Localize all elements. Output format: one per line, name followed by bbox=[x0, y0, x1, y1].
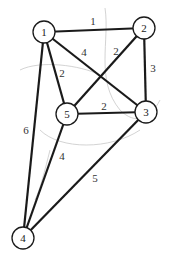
weight-1-2: 1 bbox=[90, 15, 96, 27]
edge-1-2 bbox=[44, 28, 144, 32]
node-1-label: 1 bbox=[41, 26, 47, 38]
node-3-label: 3 bbox=[143, 106, 149, 118]
node-2-label: 2 bbox=[141, 22, 147, 34]
edge-2-3 bbox=[144, 28, 146, 112]
node-3: 3 bbox=[135, 101, 157, 123]
weight-1-3: 4 bbox=[81, 46, 87, 58]
weight-1-5: 2 bbox=[59, 67, 65, 79]
node-2: 2 bbox=[133, 17, 155, 39]
node-5-label: 5 bbox=[64, 108, 70, 120]
weight-2-3: 3 bbox=[150, 62, 156, 74]
weight-5-4: 4 bbox=[59, 150, 65, 162]
edge-5-3 bbox=[67, 112, 146, 114]
weight-5-3: 2 bbox=[101, 100, 107, 112]
weight-1-4: 6 bbox=[23, 124, 29, 136]
node-4-label: 4 bbox=[20, 232, 26, 244]
graph-diagram: 1 4 2 6 2 3 2 4 5 1 2 3 4 5 bbox=[0, 0, 173, 262]
weight-3-4: 5 bbox=[92, 172, 98, 184]
node-1: 1 bbox=[33, 21, 55, 43]
node-5: 5 bbox=[56, 103, 78, 125]
node-4: 4 bbox=[12, 227, 34, 249]
weight-2-5: 2 bbox=[113, 45, 119, 57]
edges bbox=[23, 28, 146, 238]
